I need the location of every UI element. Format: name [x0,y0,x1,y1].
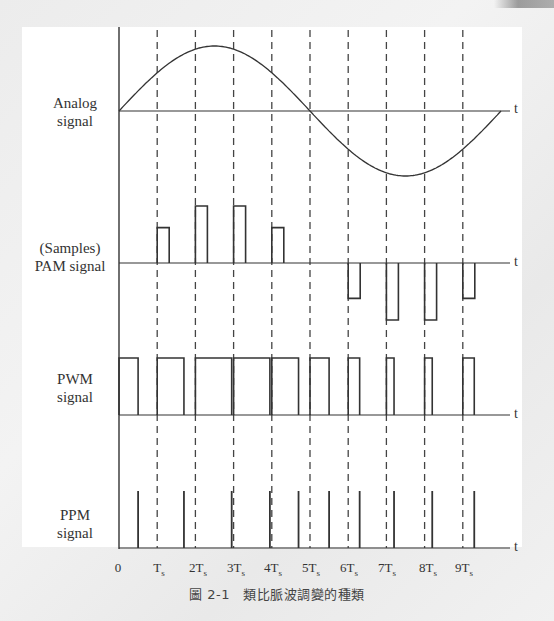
t-axis-label-ppm: t [514,539,518,555]
x-tick-label: 4Ts [264,560,282,578]
label-line: (Samples) [20,239,120,257]
analog-signal-label: Analog signal [30,94,120,130]
x-tick-label: 6Ts [340,560,358,578]
label-line: signal [30,112,120,130]
label-line: PWM [30,370,120,388]
x-tick-label: 8Ts [419,560,437,578]
ppm-signal-label: PPM signal [30,506,120,542]
ppm-waveform [138,491,474,548]
label-line: signal [30,388,120,406]
label-line: Analog [30,94,120,112]
t-axis-label-pwm: t [514,406,518,422]
figure-caption: 圖 2-1 類比脈波調變的種類 [0,584,554,603]
pam-signal-label: (Samples) PAM signal [20,239,120,275]
x-tick-label: 3Ts [227,560,245,578]
label-line: PPM [30,506,120,524]
pwm-waveform [119,358,474,415]
pwm-signal-label: PWM signal [30,370,120,406]
label-line: signal [30,524,120,542]
x-tick-label: 0 [115,560,122,576]
x-tick-label: 5Ts [302,560,320,578]
sample-gridlines [157,30,463,548]
x-tick-label: 2Ts [189,560,207,578]
t-axis-label-analog: t [514,101,518,117]
x-tick-label: Ts [153,560,164,578]
axes [119,27,510,549]
x-tick-label: 7Ts [378,560,396,578]
x-tick-label: 9Ts [455,560,473,578]
label-line: PAM signal [20,257,120,275]
t-axis-label-pam: t [514,254,518,270]
